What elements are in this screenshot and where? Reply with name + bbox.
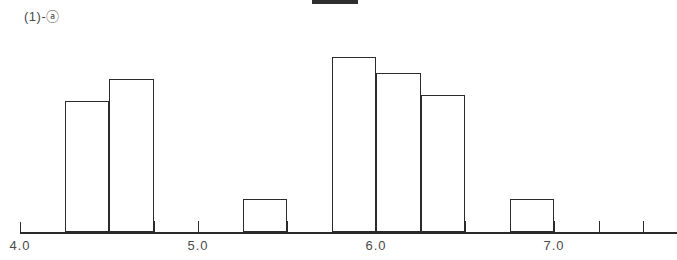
x-axis-tick (198, 221, 199, 232)
x-axis-tick-label: 5.0 (187, 238, 208, 253)
histogram-bar (376, 73, 421, 232)
x-axis-tick-label: 6.0 (365, 238, 386, 253)
histogram-bar (243, 199, 288, 232)
x-axis-tick (465, 221, 466, 232)
x-axis-line (20, 232, 677, 234)
histogram-plot: 4.05.06.07.08.09.010.0 (0, 0, 677, 260)
x-axis-tick (332, 221, 333, 232)
x-axis-tick (599, 221, 600, 232)
x-axis-tick (154, 221, 155, 232)
histogram-bar (332, 57, 377, 232)
x-axis-tick (643, 221, 644, 232)
x-axis-tick (554, 221, 555, 232)
x-axis-tick (421, 221, 422, 232)
histogram-bar (65, 101, 110, 232)
histogram-bar (510, 199, 555, 232)
histogram-bar (421, 95, 466, 232)
x-axis-tick (510, 221, 511, 232)
x-axis-tick (109, 221, 110, 232)
x-axis-start-cap (20, 222, 21, 233)
x-axis-tick (65, 221, 66, 232)
x-axis-tick-label: 4.0 (9, 238, 30, 253)
histogram-bar (109, 79, 154, 232)
x-axis-tick (243, 221, 244, 232)
x-axis-tick (376, 221, 377, 232)
x-axis-tick (287, 221, 288, 232)
x-axis-tick-label: 7.0 (543, 238, 564, 253)
